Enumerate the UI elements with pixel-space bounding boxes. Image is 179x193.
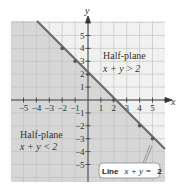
line-point <box>73 60 77 64</box>
y-tick-label: −4 <box>75 147 85 157</box>
y-tick-label: −3 <box>75 134 85 144</box>
callout-value: 2 <box>157 167 162 176</box>
y-axis-arrow-icon <box>86 16 91 23</box>
y-tick-label: 2 <box>80 69 85 79</box>
x-tick-label: −4 <box>32 103 42 113</box>
y-tick-label: 5 <box>80 31 85 41</box>
x-axis-label: x <box>170 96 176 107</box>
line-point <box>86 72 90 76</box>
line-point <box>60 47 64 51</box>
lower-region-inequality: x + y < 2 <box>19 141 57 152</box>
lower-region-title: Half-plane <box>20 129 63 140</box>
y-tick-label: −2 <box>75 121 85 131</box>
y-tick-label: 4 <box>80 43 85 53</box>
upper-region-title: Half-plane <box>103 50 146 61</box>
line-point <box>112 98 116 102</box>
x-tick-label: −5 <box>19 103 29 113</box>
callout-equation: x + y = <box>123 166 151 176</box>
half-plane-graph: x y −5−4−3−2−112345 −5−4−3−2−112345 Half… <box>0 0 179 193</box>
x-tick-label: −3 <box>45 103 55 113</box>
y-tick-label: −5 <box>75 160 85 170</box>
x-tick-label: −2 <box>57 103 67 113</box>
y-axis-label: y <box>84 5 90 16</box>
y-tick-label: −1 <box>75 108 85 118</box>
x-tick-label: 1 <box>99 103 104 113</box>
y-tick-label: 1 <box>80 82 85 92</box>
line-point <box>138 124 142 128</box>
x-tick-label: 4 <box>137 103 142 113</box>
x-tick-label: 5 <box>150 103 155 113</box>
upper-region-inequality: x + y > 2 <box>102 63 140 74</box>
line-point <box>151 137 155 141</box>
x-tick-label: 2 <box>112 103 117 113</box>
callout-prefix: Line <box>102 167 119 176</box>
